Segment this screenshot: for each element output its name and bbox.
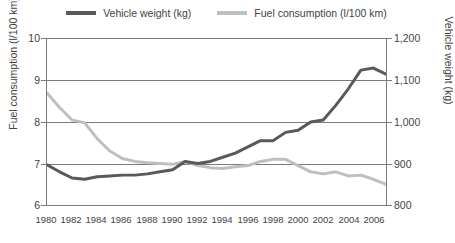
y-axis-left-tick: 7 — [10, 159, 40, 170]
legend-label-fuel-consumption: Fuel consumption (l/100 km) — [254, 8, 386, 19]
line-vehicle-weight — [47, 68, 386, 179]
chart-legend: Vehicle weight (kg) Fuel consumption (l/… — [0, 4, 453, 22]
y-axis-right-tick: 1,100 — [394, 75, 434, 86]
y-axis-right-tickmark — [387, 205, 392, 206]
y-axis-right-tick: 900 — [394, 159, 434, 170]
y-axis-right-tick: 1,000 — [394, 117, 434, 128]
y-axis-right-tickmark — [387, 164, 392, 165]
y-axis-left-tick: 10 — [10, 33, 40, 44]
y-axis-right-tick: 1,200 — [394, 33, 434, 44]
legend-item-vehicle-weight: Vehicle weight (kg) — [66, 8, 191, 19]
x-axis-tick: 2006 — [358, 214, 390, 225]
series-lines — [47, 39, 386, 205]
y-axis-left-tick: 6 — [10, 200, 40, 211]
y-axis-right-tickmark — [387, 122, 392, 123]
y-axis-right-tick: 800 — [394, 200, 434, 211]
legend-item-fuel-consumption: Fuel consumption (l/100 km) — [217, 8, 386, 19]
legend-swatch-vehicle-weight — [66, 11, 96, 15]
plot-area — [46, 38, 387, 206]
legend-label-vehicle-weight: Vehicle weight (kg) — [103, 8, 191, 19]
y-axis-left-tick: 8 — [10, 117, 40, 128]
y-axis-right-tickmark — [387, 38, 392, 39]
y-axis-left-tick: 9 — [10, 75, 40, 86]
legend-swatch-fuel-consumption — [217, 11, 247, 15]
y-axis-right-tickmark — [387, 80, 392, 81]
y-axis-right-title: Vehicle weight (kg) — [443, 0, 454, 136]
